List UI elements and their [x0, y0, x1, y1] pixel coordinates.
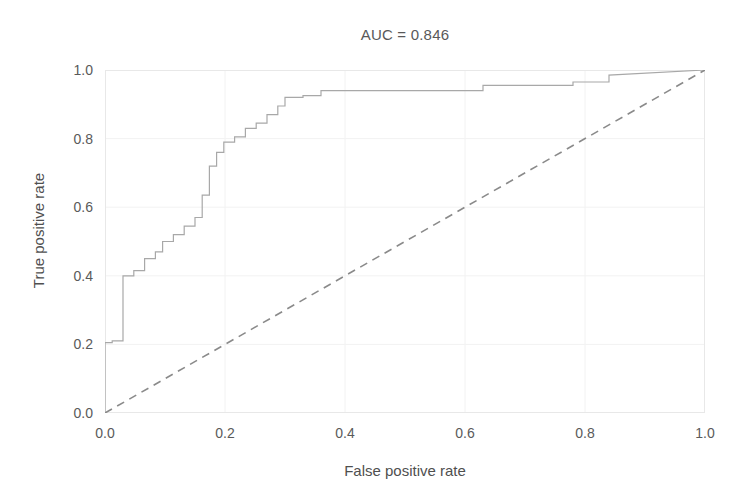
- data-series-layer: [105, 70, 705, 413]
- y-tick-label: 1.0: [53, 62, 93, 78]
- chance-diagonal-line: [105, 70, 705, 413]
- y-tick-label: 0.4: [53, 268, 93, 284]
- plot-area: [105, 70, 705, 413]
- x-tick-label: 0.4: [335, 425, 354, 441]
- x-tick-label: 1.0: [695, 425, 714, 441]
- y-tick-label: 0.2: [53, 336, 93, 352]
- plot-canvas: [105, 70, 705, 413]
- y-tick-label: 0.6: [53, 199, 93, 215]
- roc-chart-figure: AUC = 0.846 0.00.20.40.60.81.0 0.00.20.4…: [0, 0, 752, 504]
- x-tick-label: 0.0: [95, 425, 114, 441]
- x-axis-title: False positive rate: [105, 462, 705, 479]
- y-axis-title: True positive rate: [30, 131, 47, 331]
- x-tick-label: 0.8: [575, 425, 594, 441]
- x-tick-label: 0.6: [455, 425, 474, 441]
- y-tick-label: 0.0: [53, 405, 93, 421]
- y-tick-label: 0.8: [53, 131, 93, 147]
- x-tick-label: 0.2: [215, 425, 234, 441]
- chart-title: AUC = 0.846: [105, 26, 705, 43]
